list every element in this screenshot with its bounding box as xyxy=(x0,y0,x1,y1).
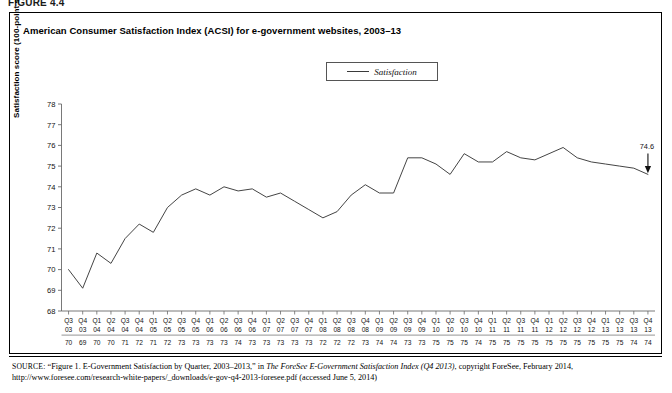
source-divider xyxy=(9,356,662,357)
figure-root: FIGURE 4.4 American Consumer Satisfactio… xyxy=(0,0,672,393)
legend-line-swatch xyxy=(347,71,369,72)
source-publication-title: The ForeSee E-Government Satisfaction In… xyxy=(266,362,454,371)
legend-entry-satisfaction: Satisfaction xyxy=(374,67,417,77)
source-kicker: SOURCE: xyxy=(12,362,45,371)
source-text-post: , copyright ForeSee, xyxy=(455,362,521,371)
chart-title: American Consumer Satisfaction Index (AC… xyxy=(23,25,401,36)
y-axis-title: Satisfaction score (100-point scale) xyxy=(12,0,21,118)
source-text-pre: “Figure 1. E-Government Satisfaction by … xyxy=(48,362,267,371)
source-note: SOURCE: “Figure 1. E-Government Satisfac… xyxy=(12,361,662,384)
chart-legend: Satisfaction xyxy=(326,62,438,81)
